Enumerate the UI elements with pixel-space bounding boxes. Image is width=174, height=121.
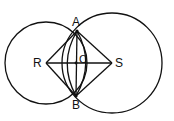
construction-figure [0, 0, 174, 121]
point-c [75, 62, 78, 65]
label-c: C [79, 54, 87, 65]
geometry-diagram: A B C R S [0, 0, 174, 121]
label-b: B [72, 99, 80, 111]
segment-sb [76, 63, 112, 96]
label-r: R [33, 57, 42, 69]
label-a: A [72, 16, 80, 28]
label-s: S [115, 57, 123, 69]
point-a [75, 29, 78, 32]
segment-br [46, 63, 76, 96]
segment-ra [46, 31, 77, 63]
